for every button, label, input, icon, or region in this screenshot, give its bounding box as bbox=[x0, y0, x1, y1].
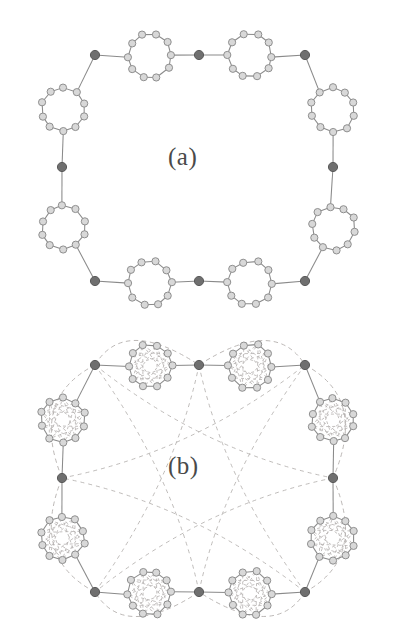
linker-bond bbox=[95, 365, 129, 366]
cluster-atom bbox=[72, 241, 79, 248]
cluster-atom bbox=[317, 123, 324, 130]
cluster-atom bbox=[327, 204, 334, 211]
cluster-atom bbox=[81, 409, 88, 416]
linker-bond bbox=[305, 557, 319, 592]
linker-vertex bbox=[90, 587, 99, 596]
cluster-atom bbox=[255, 258, 262, 265]
cluster-atom bbox=[73, 89, 80, 96]
linker-vertex bbox=[194, 50, 203, 59]
linker-vertex bbox=[90, 50, 99, 59]
cluster-atom bbox=[46, 398, 53, 405]
cluster-atom bbox=[38, 529, 45, 536]
cluster-atom bbox=[59, 394, 66, 401]
cluster-atom bbox=[46, 552, 53, 559]
cluster-atom bbox=[252, 611, 259, 618]
cluster-cross-link bbox=[256, 571, 257, 615]
panel-a bbox=[0, 0, 398, 320]
linker-bond bbox=[305, 365, 320, 402]
cluster-atom bbox=[60, 246, 67, 253]
cluster-atom bbox=[350, 214, 357, 221]
cluster-atom bbox=[167, 588, 174, 595]
cluster-atom bbox=[38, 422, 45, 429]
cluster-atom bbox=[39, 231, 46, 238]
cluster-atom bbox=[265, 266, 272, 273]
cluster-atom bbox=[46, 242, 53, 249]
linker-vertex bbox=[57, 473, 66, 482]
cluster-atom bbox=[59, 84, 66, 91]
dashed-peripheral-arc bbox=[51, 478, 95, 592]
cluster-atom bbox=[316, 398, 323, 405]
linker-vertex bbox=[194, 360, 203, 369]
linker-bond bbox=[77, 55, 95, 92]
linker-bond bbox=[76, 245, 95, 281]
cluster-atom bbox=[229, 265, 236, 272]
linker-vertex bbox=[300, 276, 309, 285]
cluster-atom bbox=[264, 350, 271, 357]
linker-bond bbox=[62, 443, 63, 478]
cluster-atom bbox=[164, 601, 171, 608]
cluster-atom bbox=[80, 423, 87, 430]
cluster-atom bbox=[164, 38, 171, 45]
cluster-atom bbox=[39, 113, 46, 120]
linker-vertex bbox=[300, 360, 309, 369]
cluster-atom bbox=[81, 231, 88, 238]
linker-vertex bbox=[300, 587, 309, 596]
cluster-atom bbox=[229, 350, 236, 357]
cluster-atom bbox=[168, 279, 175, 286]
cluster-atom bbox=[268, 363, 275, 370]
cluster-atom bbox=[225, 589, 232, 596]
linker-vertex bbox=[90, 360, 99, 369]
cluster-cross-link bbox=[311, 521, 345, 530]
cluster-atom bbox=[308, 423, 315, 430]
cluster-atom bbox=[255, 341, 262, 348]
cluster-atom bbox=[314, 208, 321, 215]
cluster-atom bbox=[350, 527, 357, 534]
cluster-atom bbox=[153, 569, 160, 576]
cluster-atom bbox=[309, 410, 316, 417]
cluster-cross-link bbox=[156, 573, 157, 615]
cluster-atom bbox=[60, 439, 67, 446]
cluster-cross-link bbox=[133, 378, 168, 379]
cluster-atom bbox=[224, 362, 231, 369]
cluster-atom bbox=[342, 518, 349, 525]
cluster-atom bbox=[239, 384, 246, 391]
cluster-atom bbox=[308, 99, 315, 106]
cluster-atom bbox=[240, 31, 247, 38]
cluster-cross-link bbox=[143, 572, 167, 604]
cluster-cross-link bbox=[319, 521, 320, 557]
linker-vertex bbox=[57, 162, 66, 171]
cluster-atom bbox=[154, 301, 161, 308]
cluster-cross-link bbox=[233, 605, 268, 606]
cluster-atom bbox=[47, 88, 54, 95]
cluster-atom bbox=[154, 611, 161, 618]
cluster-atom bbox=[127, 576, 134, 583]
cluster-cross-link bbox=[232, 580, 256, 614]
cluster-atom bbox=[39, 218, 46, 225]
cluster-cross-link bbox=[49, 413, 84, 439]
cluster-atom bbox=[139, 383, 146, 390]
cluster-atom bbox=[317, 433, 324, 440]
linker-bond bbox=[62, 131, 63, 167]
cluster-atom bbox=[152, 31, 159, 38]
cluster-atom bbox=[342, 552, 349, 559]
cluster-atom bbox=[164, 292, 171, 299]
cluster-cross-link bbox=[233, 571, 257, 605]
cluster-atom bbox=[341, 89, 348, 96]
cluster-atom bbox=[81, 113, 88, 120]
linker-bond bbox=[305, 55, 320, 92]
cluster-atom bbox=[316, 89, 323, 96]
cluster-atom bbox=[329, 557, 336, 564]
cluster-atom bbox=[60, 127, 67, 134]
cluster-atom bbox=[138, 31, 145, 38]
cluster-atom bbox=[340, 206, 347, 213]
linker-bond bbox=[333, 441, 334, 478]
cluster-atom bbox=[317, 517, 324, 524]
cluster-atom bbox=[239, 72, 246, 79]
linker-vertex bbox=[300, 50, 309, 59]
cluster-atom bbox=[72, 205, 79, 212]
cluster-atom bbox=[38, 408, 45, 415]
cluster-atom bbox=[228, 374, 235, 381]
cluster-atom bbox=[264, 602, 271, 609]
cluster-atom bbox=[240, 342, 247, 349]
cluster-atom bbox=[309, 220, 316, 227]
